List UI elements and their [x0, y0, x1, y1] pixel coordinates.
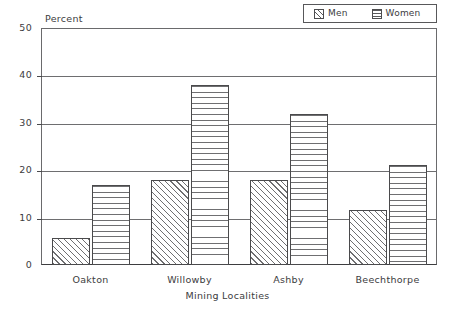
y-tick: 30 — [8, 123, 32, 133]
bar-women-oakton — [92, 185, 130, 265]
bar-women-ashby — [290, 114, 328, 265]
x-tick-label-willowby: Willowby — [167, 275, 212, 285]
legend-item-women: Women — [372, 9, 421, 19]
x-tick-label-beechthorpe: Beechthorpe — [355, 275, 419, 285]
y-tick-label: 50 — [19, 23, 32, 33]
chart-legend: Men Women — [303, 4, 437, 23]
y-tick: 20 — [8, 170, 32, 180]
y-tick: 40 — [8, 75, 32, 85]
y-tick: 0 — [8, 265, 32, 275]
y-axis-title: Percent — [45, 14, 83, 24]
x-tick-label-ashby: Ashby — [273, 275, 304, 285]
bar-men-willowby — [151, 180, 189, 265]
horizontal-lines-swatch-icon — [372, 9, 382, 19]
y-tick-label: 0 — [26, 260, 32, 270]
x-tick-label-oakton: Oakton — [72, 275, 108, 285]
bars-layer — [41, 28, 437, 265]
diagonal-hatch-swatch-icon — [314, 9, 324, 19]
legend-label-men: Men — [328, 9, 348, 18]
bar-chart: Men Women Percent 01020304050 OaktonWill… — [0, 0, 455, 316]
bar-men-beechthorpe — [349, 210, 387, 265]
legend-item-men: Men — [314, 9, 348, 19]
bar-men-oakton — [52, 238, 90, 265]
y-tick: 50 — [8, 28, 32, 38]
y-tick-label: 20 — [19, 165, 32, 175]
x-axis-title: Mining Localities — [0, 291, 455, 301]
y-tick-label: 30 — [19, 118, 32, 128]
bar-men-ashby — [250, 180, 288, 265]
legend-label-women: Women — [386, 9, 421, 18]
y-tick: 10 — [8, 218, 32, 228]
y-tick-label: 10 — [19, 213, 32, 223]
bar-women-beechthorpe — [389, 165, 427, 265]
y-tick-label: 40 — [19, 70, 32, 80]
bar-women-willowby — [191, 85, 229, 265]
